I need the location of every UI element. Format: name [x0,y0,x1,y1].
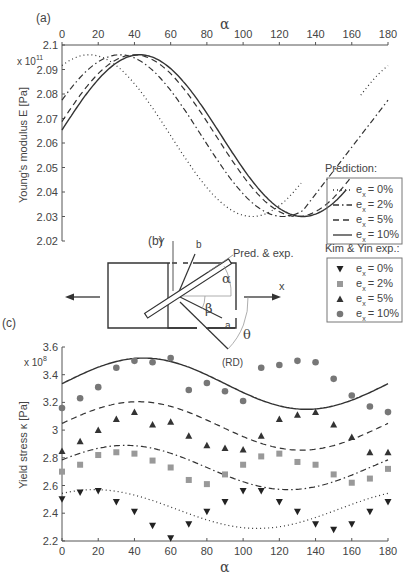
data-point-circle [59,405,66,412]
y-tick-label: 3 [52,424,58,436]
figure: (a) (b) (c) 020406080100120140160180 2.0… [0,0,417,578]
data-point-triangle-up [203,442,210,449]
curve-solid [62,55,346,217]
x-tick-label: 120 [270,545,288,557]
x-tick-label: 140 [306,28,324,40]
data-point-triangle-down [312,521,319,528]
legend-experiment: Kim & Yin exp.: ex= 0%ex= 2%ex= 5%ex= 10… [325,242,402,322]
curve-dash-dot [62,55,388,217]
data-point-circle [167,355,174,362]
experiment-markers-c [59,355,392,542]
x-tick-label: 160 [343,28,361,40]
y-tick-label: 2.08 [37,88,58,100]
legend-marker-triangle-up [337,296,344,303]
data-point-square [186,477,192,483]
data-point-triangle-down [348,521,355,528]
data-point-circle [77,395,84,402]
data-point-triangle-up [294,411,301,418]
data-point-circle [204,380,211,387]
data-point-triangle-up [95,427,102,434]
a-label: a [225,320,231,331]
panel-c-label: (c) [2,316,16,330]
rd-label: (RD) [222,357,243,368]
data-point-circle [276,362,283,369]
data-point-triangle-up [167,418,174,425]
data-point-triangle-up [258,432,265,439]
data-point-circle [131,358,138,365]
data-point-square [131,451,137,457]
data-point-circle [312,359,319,366]
data-point-triangle-up [77,438,84,445]
data-point-square [95,452,101,458]
data-point-square [59,469,65,475]
y-tick-label: 2.03 [37,211,58,223]
data-point-circle [113,364,120,371]
data-point-triangle-down [385,499,392,506]
chart-a: 020406080100120140160180 2.022.032.042.0… [17,16,397,247]
data-point-triangle-up [113,416,120,423]
y-tick-label: 3.4 [43,369,58,381]
y-tick-label: 2.09 [37,64,58,76]
data-point-triangle-down [149,523,156,530]
legend-entry: ex= 5% [356,292,393,307]
prediction-curves-a [62,55,388,217]
alpha-label-a: α [220,16,230,32]
legend-prediction: Prediction: ex= 0%ex= 2%ex= 5%ex= 10% [325,162,402,244]
legend-entry: ex= 5% [356,213,393,228]
data-point-circle [385,409,392,416]
data-point-circle [348,392,355,399]
x-tick-label: 20 [92,28,104,40]
x-tick-label: 100 [234,28,252,40]
data-point-triangle-down [240,488,247,495]
data-point-triangle-down [330,527,337,534]
x-tick-label: 40 [128,545,140,557]
y-tick-label: 2.05 [37,162,58,174]
y-tick-label: 2.06 [37,137,58,149]
data-point-square [331,471,337,477]
x-tick-label: 80 [201,28,213,40]
data-point-triangle-up [366,449,373,456]
data-point-triangle-up [59,447,66,454]
curve-dash-dot [62,445,388,489]
legend-entry: ex= 10% [356,307,399,322]
data-point-triangle-down [222,499,229,506]
y-tick-label: 2.8 [43,452,58,464]
panel-a-label: (a) [36,11,51,25]
data-point-triangle-down [276,499,283,506]
data-point-triangle-up [131,409,138,416]
data-point-triangle-up [330,421,337,428]
y-tick-label: 2.6 [43,480,58,492]
data-point-triangle-down [294,509,301,516]
theta-symbol: θ [243,327,251,342]
legend-entry: ex= 0% [356,183,393,198]
data-point-triangle-up [149,421,156,428]
data-point-triangle-down [366,509,373,516]
y-tick-label: 2.4 [43,507,58,519]
data-point-triangle-up [185,432,192,439]
data-point-square [77,462,83,468]
y-axis-label: Y [158,237,165,248]
curve-dashed [62,402,388,451]
x-tick-label: 180 [379,28,397,40]
data-point-square [113,449,119,455]
data-point-circle [240,398,247,405]
data-point-square [222,471,228,477]
x-tick-label: 60 [165,545,177,557]
data-point-circle [294,358,301,365]
y-tick-label: 2.07 [37,113,58,125]
data-point-triangle-down [258,488,265,495]
data-point-square [150,458,156,464]
chart-c: 020406080100120140160180 2.22.42.62.833.… [17,341,397,575]
data-point-triangle-up [385,449,392,456]
legend-experiment-title: Kim & Yin exp.: [325,242,400,254]
data-point-triangle-up [276,416,283,423]
x-tick-label: 60 [165,28,177,40]
beta-symbol: β [205,301,213,316]
x-tick-label: 100 [234,545,252,557]
b-label: b [196,239,202,250]
y-tick-label: 2.02 [37,235,58,247]
x-axis-label: x [279,280,285,292]
data-point-circle [367,403,374,410]
data-point-circle [149,359,156,366]
data-point-circle [95,384,102,391]
